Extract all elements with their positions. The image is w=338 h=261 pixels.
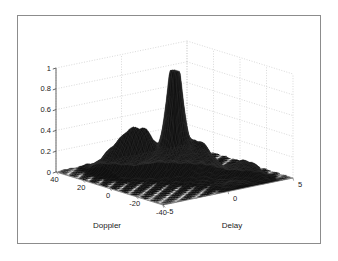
doppler-tick-label: -20	[129, 199, 140, 208]
z-tick-label: 0.2	[41, 147, 51, 156]
axis-title-doppler: Doppler	[93, 221, 121, 230]
doppler-tick-label: 40	[50, 175, 58, 184]
doppler-tick-label: 0	[106, 191, 110, 200]
figure-border-top	[17, 15, 321, 16]
figure-border-left	[17, 15, 18, 244]
axis-title-delay: Delay	[222, 221, 242, 230]
delay-tick-label: 0	[233, 194, 237, 203]
doppler-tick-label: 20	[77, 183, 85, 192]
delay-tick-label: 5	[298, 180, 302, 189]
z-tick-label: 0.6	[41, 105, 51, 114]
z-tick-label: 0.8	[41, 84, 51, 93]
doppler-tick-label: -40	[156, 208, 167, 217]
surface-plot-3d: 10.80.60.40.20 40200-20-40 -505 Doppler …	[0, 0, 338, 261]
z-tick-label: 1	[47, 64, 51, 73]
figure-border-right	[320, 15, 321, 244]
figure-container: 10.80.60.40.20 40200-20-40 -505 Doppler …	[0, 0, 338, 261]
figure-border-bottom	[17, 243, 321, 244]
z-axis	[53, 68, 56, 173]
z-tick-label: 0.4	[41, 126, 51, 135]
z-tick-labels: 10.80.60.40.20	[41, 64, 51, 177]
surface-mesh	[56, 70, 293, 205]
delay-tick-label: -5	[167, 207, 174, 216]
